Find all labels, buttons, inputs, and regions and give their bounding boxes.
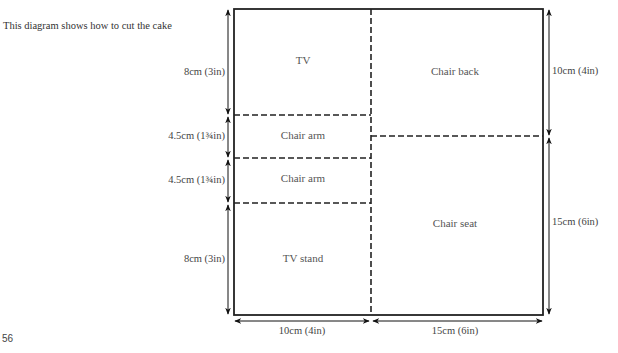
piece-tv: TV (296, 54, 311, 66)
piece-chair-arm-1: Chair arm (281, 129, 326, 141)
piece-chair-seat: Chair seat (433, 217, 477, 229)
dim-label-bottom-right: 15cm (6in) (432, 325, 479, 337)
cake-cutting-diagram: TV Chair arm Chair arm TV stand Chair ba… (0, 0, 618, 353)
dim-label-right-seat: 15cm (6in) (552, 216, 599, 228)
cake-outline (234, 9, 543, 315)
dim-label-left-arm2: 4.5cm (1¾in) (168, 174, 225, 186)
dim-label-left-tv: 8cm (3in) (184, 66, 226, 78)
dim-label-right-back: 10cm (4in) (552, 65, 599, 77)
piece-chair-arm-2: Chair arm (281, 172, 326, 184)
dim-label-bottom-left: 10cm (4in) (279, 325, 326, 337)
cut-lines (234, 9, 543, 315)
piece-tv-stand: TV stand (283, 252, 324, 264)
piece-chair-back: Chair back (431, 65, 479, 77)
dim-label-left-arm1: 4.5cm (1¾in) (168, 130, 225, 142)
dim-label-left-stand: 8cm (3in) (184, 253, 226, 265)
